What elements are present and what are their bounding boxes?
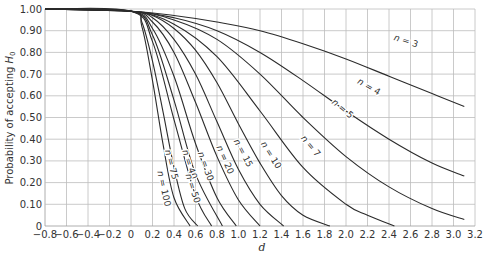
y-tick-label: 0.80 — [20, 47, 42, 58]
x-tick-label: 0.4 — [166, 229, 182, 240]
x-tick-label: 2.2 — [360, 229, 376, 240]
x-tick-label: 1.4 — [274, 229, 290, 240]
curve-label: n = 3 — [393, 32, 420, 49]
x-tick-label: −0.2 — [97, 229, 121, 240]
x-tick-label: 1.6 — [295, 229, 311, 240]
y-tick-label: 1.00 — [20, 4, 42, 15]
curve-label: n = 4 — [356, 76, 383, 97]
curve-label: n = 20 — [214, 144, 236, 176]
oc-curve-chart: n = 3n = 4n = 5n = 7n = 10n = 15n = 20n … — [0, 0, 487, 258]
y-tick-label: 0.90 — [20, 25, 42, 36]
curve-label: n = 7 — [299, 133, 323, 158]
y-tick-label: 0.40 — [20, 134, 42, 145]
x-tick-label: 3.2 — [467, 229, 483, 240]
x-tick-label: 0.2 — [145, 229, 161, 240]
y-axis-ticks: 00.100.200.300.400.500.600.700.800.901.0… — [20, 4, 42, 232]
curve-label: n = 10 — [259, 139, 284, 170]
x-tick-label: 2.4 — [381, 229, 397, 240]
y-axis-title: Probability of accepting H0 — [4, 51, 17, 184]
x-tick-label: 1.8 — [317, 229, 333, 240]
y-tick-label: 0.70 — [20, 69, 42, 80]
x-tick-label: 1.0 — [231, 229, 247, 240]
x-axis-title: d — [258, 241, 265, 254]
x-tick-label: 1.2 — [252, 229, 268, 240]
curve-label: n = 5 — [330, 97, 355, 121]
x-tick-label: 2.8 — [424, 229, 440, 240]
curve-label: n = 30 — [196, 150, 216, 182]
x-tick-label: 2.6 — [403, 229, 419, 240]
y-tick-label: 0.50 — [20, 112, 42, 123]
x-axis-ticks: −0.8−0.6−0.4−0.200.20.40.60.81.01.21.41.… — [33, 229, 483, 240]
x-tick-label: 3.0 — [446, 229, 462, 240]
y-tick-label: 0.10 — [20, 199, 42, 210]
x-tick-label: 0.8 — [209, 229, 225, 240]
oc-curve-n3 — [45, 9, 464, 107]
x-tick-label: 0.6 — [188, 229, 204, 240]
y-tick-label: 0.20 — [20, 177, 42, 188]
y-tick-label: 0.30 — [20, 155, 42, 166]
y-tick-label: 0.60 — [20, 90, 42, 101]
x-tick-label: 2.0 — [338, 229, 354, 240]
x-tick-label: 0 — [128, 229, 134, 240]
